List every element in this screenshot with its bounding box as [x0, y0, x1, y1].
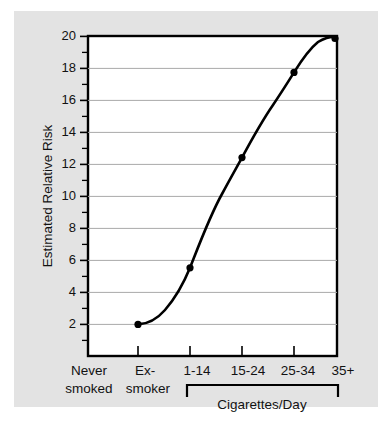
ytick-label-6: 6: [69, 252, 76, 267]
data-point-35plus: [331, 35, 338, 42]
ytick-label-2: 2: [69, 316, 76, 331]
relative-risk-line-chart: 20 18 16 14 12 10 8 6 4 2 Estimated Rela…: [0, 0, 392, 425]
xtick-label-never-line2: smoked: [65, 381, 112, 396]
x-axis-tick-labels-line2: smoked smoker: [65, 381, 170, 396]
xtick-label-ex-line2: smoker: [126, 381, 171, 396]
ytick-label-10: 10: [62, 188, 76, 203]
x-axis-title: Cigarettes/Day: [217, 397, 307, 412]
xtick-label-25-34: 25-34: [281, 363, 316, 378]
xtick-label-35plus: 35+: [332, 363, 355, 378]
y-axis-tick-labels: 20 18 16 14 12 10 8 6 4 2: [62, 28, 76, 331]
ytick-label-14: 14: [62, 124, 76, 139]
data-point-1-14: [186, 264, 193, 271]
y-axis-title: Estimated Relative Risk: [40, 124, 55, 267]
ytick-label-8: 8: [69, 220, 76, 235]
data-point-ex-smoker: [134, 321, 141, 328]
cigarettes-per-day-bracket: [187, 385, 338, 397]
xtick-label-15-24: 15-24: [231, 363, 266, 378]
xtick-label-never-line1: Never: [71, 363, 108, 378]
ytick-label-18: 18: [62, 60, 76, 75]
data-point-15-24: [238, 154, 245, 161]
ytick-label-20: 20: [62, 28, 76, 43]
xtick-label-1-14: 1-14: [183, 363, 211, 378]
xtick-label-ex-line1: Ex-: [135, 363, 155, 378]
data-point-25-34: [290, 69, 297, 76]
ytick-label-16: 16: [62, 92, 76, 107]
figure-container: 20 18 16 14 12 10 8 6 4 2 Estimated Rela…: [0, 0, 392, 425]
ytick-label-4: 4: [69, 284, 76, 299]
x-axis-tick-labels-line1: Never Ex- 1-14 15-24 25-34 35+: [71, 363, 355, 378]
ytick-label-12: 12: [62, 156, 76, 171]
